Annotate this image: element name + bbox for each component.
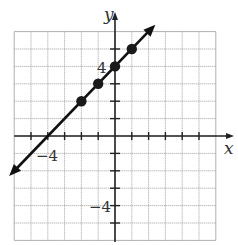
x-tick-label-neg4: −4 <box>36 147 58 165</box>
data-point <box>127 44 137 54</box>
data-point <box>110 61 120 71</box>
y-axis-label: y <box>103 4 114 24</box>
y-tick-label-neg4: −4 <box>89 198 111 216</box>
data-point <box>93 79 103 89</box>
x-axis-label: x <box>224 138 234 158</box>
data-point <box>76 96 86 106</box>
y-tick-label-4: 4 <box>97 59 107 77</box>
coordinate-plane: y x −4 4 −4 <box>0 0 238 245</box>
axes <box>14 12 234 242</box>
